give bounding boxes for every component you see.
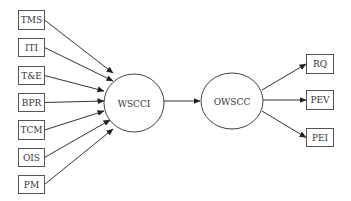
edge-owscc-to-pei	[262, 111, 306, 138]
edges-layer	[45, 20, 307, 185]
node-label: PEI	[312, 133, 329, 143]
node-pm: PM	[19, 176, 45, 194]
node-label: ITI	[25, 43, 39, 53]
node-wscci: WSCCI	[104, 74, 164, 132]
node-label: OIS	[23, 153, 40, 163]
node-owscc: OWSCC	[201, 73, 263, 129]
node-label: BPR	[22, 98, 42, 108]
node-tms: TMS	[19, 11, 45, 30]
node-rq: RQ	[307, 55, 334, 74]
edge-owscc-to-rq	[262, 64, 306, 90]
node-label: PEV	[310, 95, 330, 105]
node-label: PM	[24, 180, 39, 190]
node-label: WSCCI	[118, 99, 151, 109]
node-label: T&E	[21, 71, 42, 81]
edge-tms-to-wscci	[45, 20, 114, 73]
node-label: OWSCC	[214, 97, 251, 107]
node-label: TMS	[21, 15, 42, 25]
edge-tcm-to-wscci	[45, 111, 105, 130]
edge-te-to-wscci	[45, 76, 105, 92]
node-ois: OIS	[19, 149, 45, 167]
node-te: T&E	[19, 67, 45, 85]
node-iti: ITI	[19, 39, 45, 57]
node-tcm: TCM	[19, 121, 45, 140]
node-pei: PEI	[307, 129, 334, 147]
diagram-canvas: TMSITIT&EBPRTCMOISPMWSCCIOWSCCRQPEVPEI	[0, 0, 351, 201]
node-label: RQ	[313, 59, 327, 69]
node-bpr: BPR	[19, 94, 45, 112]
node-label: TCM	[20, 125, 42, 135]
edge-iti-to-wscci	[45, 48, 114, 82]
node-pev: PEV	[307, 91, 334, 110]
edge-bpr-to-wscci	[45, 101, 105, 103]
